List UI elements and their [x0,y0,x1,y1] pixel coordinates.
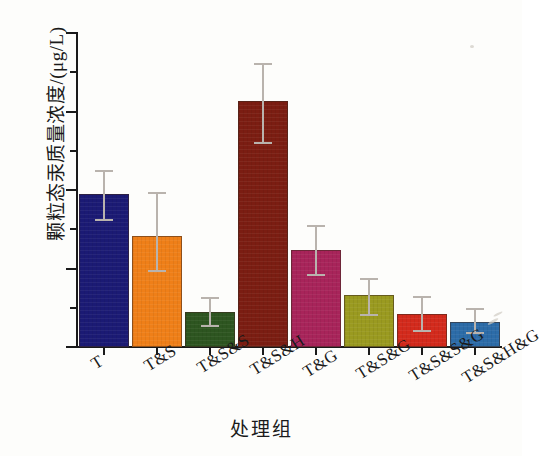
scan-speck-1 [470,45,474,48]
y-tick-major-3 [66,111,77,113]
y-tick-minor-1.5 [70,228,77,230]
bar-T&S&H[interactable] [238,101,288,347]
x-tick-T&S&H&G [474,348,476,355]
y-tick-minor-0.5 [70,307,77,309]
x-tick-T&S&G [368,348,370,355]
y-tick-major-4 [66,32,77,34]
y-tick-minor-3.5 [70,71,77,73]
error-bar-cap-upper [466,308,484,310]
x-category-label-T: T [88,352,106,372]
error-bar-cap-upper [307,225,325,227]
x-category-label-T&G: T&G [300,346,341,380]
plot-area [77,33,502,347]
y-tick-major-1 [66,268,77,270]
bar-T&S&G[interactable] [344,295,394,347]
y-axis-title: 颗粒态汞质量浓度/(μg/L) [41,0,68,284]
y-tick-major-2 [66,189,77,191]
error-bar-cap-upper [360,278,378,280]
y-tick-major-0 [66,346,77,348]
error-bar-cap-upper [254,63,272,65]
error-bar-cap-upper [201,297,219,299]
error-bar-cap-upper [413,296,431,298]
error-bar-cap-upper [95,170,113,172]
x-tick-T [103,348,105,355]
bar-T&S[interactable] [132,236,182,347]
error-bar-cap-upper [148,192,166,194]
x-axis-title: 处理组 [0,414,522,441]
bar-T[interactable] [79,194,129,347]
y-tick-minor-2.5 [70,150,77,152]
x-tick-T&S&S&G [421,348,423,355]
